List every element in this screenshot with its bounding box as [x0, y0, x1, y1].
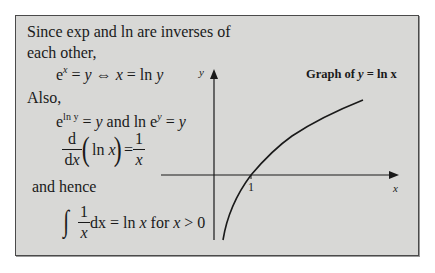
graph-title: Graph of y = ln x [306, 67, 397, 82]
ln-graph [0, 0, 435, 273]
x-axis-arrow-icon [389, 171, 399, 179]
tick-label-1: 1 [248, 180, 254, 195]
y-axis-label: y [199, 66, 204, 78]
ln-curve [223, 100, 363, 240]
y-axis-arrow-icon [210, 69, 218, 79]
x-axis-label: x [393, 182, 398, 194]
